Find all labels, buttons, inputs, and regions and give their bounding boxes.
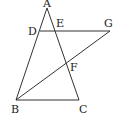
geometry-diagram: A D E G F B C: [0, 0, 117, 118]
label-b: B: [11, 103, 19, 116]
label-g: G: [104, 17, 113, 30]
label-c: C: [79, 103, 87, 116]
label-f: F: [70, 61, 78, 74]
segment-bg: [16, 31, 110, 100]
segment-ab: [16, 8, 47, 100]
label-a: A: [42, 0, 52, 10]
label-d: D: [28, 25, 37, 38]
label-e: E: [56, 17, 64, 30]
